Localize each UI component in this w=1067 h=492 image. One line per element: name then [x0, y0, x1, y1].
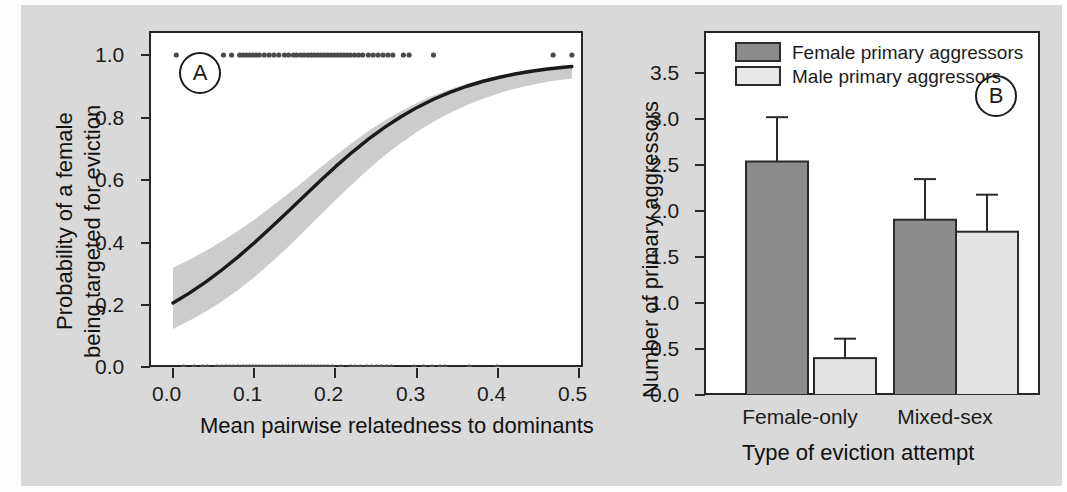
data-point — [371, 52, 376, 57]
panel-a-xtick-5 — [497, 368, 499, 378]
panel-b-ytick-2 — [695, 118, 705, 120]
panel-a-ytick-1 — [141, 54, 150, 56]
data-point — [364, 364, 369, 367]
confidence-band — [173, 66, 572, 329]
data-point — [348, 364, 353, 367]
panel-b-tag: B — [975, 75, 1017, 117]
panel-a-xtick-label-3: 0.2 — [314, 383, 343, 404]
panel-a-tag: A — [179, 52, 221, 94]
data-point — [214, 364, 219, 367]
paper-margin-right — [1062, 0, 1067, 492]
data-point — [174, 52, 179, 57]
legend-swatch-male — [735, 66, 781, 86]
data-point — [551, 52, 556, 57]
panel-b-ytick-8 — [695, 394, 705, 396]
bar — [894, 220, 956, 395]
data-point — [376, 52, 381, 57]
data-point — [192, 364, 197, 367]
data-point — [379, 364, 384, 367]
data-point — [276, 52, 281, 57]
data-point — [330, 364, 335, 367]
panel-a-ytick-6 — [141, 366, 150, 368]
data-point — [411, 364, 416, 367]
bar — [746, 162, 808, 396]
data-point — [421, 364, 426, 367]
data-point — [236, 364, 241, 367]
panel-a-xtick-4 — [416, 368, 418, 378]
data-point — [385, 52, 390, 57]
data-point — [231, 364, 236, 367]
panel-a-ytick-4 — [141, 242, 150, 244]
panel-a-xtick-label-2: 0.1 — [233, 383, 262, 404]
bar — [814, 358, 876, 395]
data-point — [271, 52, 276, 57]
data-point — [338, 364, 343, 367]
data-point — [325, 364, 330, 367]
data-point — [429, 364, 434, 367]
panel-a-xtick-3 — [334, 368, 336, 378]
data-point — [384, 364, 389, 367]
data-point — [437, 364, 442, 367]
data-point — [360, 52, 365, 57]
data-point — [467, 364, 472, 367]
panel-a-x-axis-title: Mean pairwise relatedness to dominants — [200, 413, 594, 439]
data-point — [366, 52, 371, 57]
panel-a-xtick-label-1: 0.0 — [152, 383, 181, 404]
data-point — [221, 52, 226, 57]
data-point — [369, 364, 374, 367]
panel-b-category-label-2: Mixed-sex — [870, 405, 1020, 429]
panel-a-ytick-label-6: 0.0 — [95, 356, 124, 377]
panel-b-ytick-7 — [695, 348, 705, 350]
data-point — [374, 364, 379, 367]
paper-margin-bottom — [0, 486, 1067, 492]
bar — [956, 232, 1018, 395]
data-point — [353, 364, 358, 367]
panel-a-ytick-3 — [141, 179, 150, 181]
data-point — [229, 52, 234, 57]
data-point — [205, 364, 210, 367]
panel-a-xtick-2 — [253, 368, 255, 378]
panel-b-category-label-1: Female-only — [720, 405, 880, 429]
data-point — [181, 364, 186, 367]
panel-a-y-axis-title-line2: being targeted for eviction — [80, 105, 106, 358]
data-point — [569, 52, 574, 57]
figure-canvas: 1.0 0.8 0.6 0.4 0.2 0.0 0.0 0.1 0.2 0.3 … — [0, 0, 1067, 492]
panel-b-x-axis-title: Type of eviction attempt — [742, 440, 974, 466]
data-points-not-targeted — [181, 364, 500, 367]
bar-group — [746, 162, 1018, 396]
data-point — [431, 52, 436, 57]
panel-a-xtick-1 — [172, 368, 174, 378]
data-point — [390, 52, 395, 57]
paper-margin-left — [0, 0, 21, 492]
panel-b-ytick-3 — [695, 164, 705, 166]
data-point — [286, 52, 291, 57]
data-point — [494, 364, 499, 367]
panel-b-ytick-5 — [695, 256, 705, 258]
panel-a-xtick-6 — [578, 368, 580, 378]
data-point — [257, 52, 262, 57]
panel-b-y-axis-title: Number of primary aggressors — [638, 101, 664, 398]
data-point — [401, 52, 406, 57]
paper-margin-top — [0, 0, 1067, 5]
panel-b-ytick-4 — [695, 210, 705, 212]
panel-b-ytick-1 — [695, 72, 705, 74]
panel-b-ytick-6 — [695, 302, 705, 304]
panel-a-ytick-5 — [141, 304, 150, 306]
data-point — [267, 52, 272, 57]
data-point — [380, 52, 385, 57]
legend-label-male: Male primary aggressors — [792, 66, 1001, 88]
data-points-targeted — [174, 52, 575, 57]
legend-swatch-female — [735, 42, 781, 62]
panel-a-xtick-label-5: 0.4 — [477, 383, 506, 404]
legend-label-female: Female primary aggressors — [792, 42, 1023, 64]
data-point — [358, 364, 363, 367]
data-point — [262, 52, 267, 57]
panel-a-ytick-2 — [141, 117, 150, 119]
panel-a-xtick-label-4: 0.3 — [396, 383, 425, 404]
panel-a-y-axis-title-line1: Probability of a female — [52, 112, 78, 330]
panel-a-ytick-label-1: 1.0 — [95, 44, 124, 65]
panel-b-ytick-label-1: 3.5 — [650, 62, 679, 83]
data-point — [407, 52, 412, 57]
data-point — [389, 364, 394, 367]
data-point — [200, 364, 205, 367]
